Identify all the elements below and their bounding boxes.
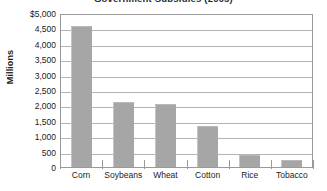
x-axis-category-label: Rice (229, 170, 271, 180)
y-axis-tick-label: 3,500 (14, 56, 56, 65)
x-axis-category-label: Cotton (187, 170, 229, 180)
y-axis-tick-label: 2,500 (14, 87, 56, 96)
bar-slot (270, 15, 312, 167)
x-axis-tick (60, 160, 61, 169)
x-axis-tick (102, 160, 103, 169)
x-axis-category-label: Soybeans (102, 170, 144, 180)
x-axis-category-label: Corn (60, 170, 102, 180)
y-axis-tick-label: 1,000 (14, 133, 56, 142)
x-axis-tick (313, 160, 314, 169)
x-axis-tick-marks (60, 158, 313, 169)
x-axis-category-label: Tobacco (271, 170, 313, 180)
y-axis-tick-label: 3,000 (14, 71, 56, 80)
y-axis-tick-label: 0 (14, 164, 56, 173)
y-axis-tick-labels: $5,0004,5004,0003,5003,0002,5002,0001,50… (14, 14, 56, 168)
x-axis-tick (187, 160, 188, 169)
x-axis-tick (144, 160, 145, 169)
bar-chart: Government Subsidies (2005) Millions $5,… (0, 0, 327, 191)
bar-slot (186, 15, 228, 167)
y-axis-tick-label: 500 (14, 148, 56, 157)
y-axis-tick-label: 1,500 (14, 118, 56, 127)
bar-slot (228, 15, 270, 167)
x-axis-tick (271, 160, 272, 169)
chart-title: Government Subsidies (2005) (0, 0, 327, 4)
y-axis-tick-label: $5,000 (14, 10, 56, 19)
y-axis-tick-label: 4,000 (14, 41, 56, 50)
bar-series (61, 15, 312, 167)
bar-slot (145, 15, 187, 167)
x-axis-category-labels: CornSoybeansWheatCottonRiceTobacco (60, 170, 313, 180)
plot-area (60, 14, 313, 168)
bar-slot (61, 15, 103, 167)
x-axis-category-label: Wheat (144, 170, 186, 180)
x-axis-tick (229, 160, 230, 169)
y-axis-tick-label: 2,000 (14, 102, 56, 111)
bar (71, 26, 92, 167)
bar-slot (103, 15, 145, 167)
y-axis-tick-label: 4,500 (14, 25, 56, 34)
